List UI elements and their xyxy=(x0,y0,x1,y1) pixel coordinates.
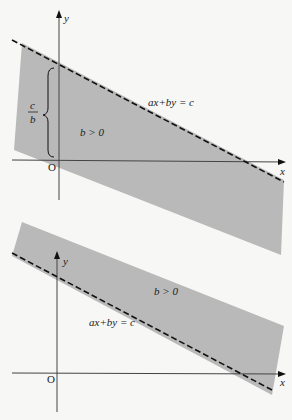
top-region-label: b > 0 xyxy=(80,126,104,138)
bottom-line-label: ax+by = c xyxy=(89,316,135,328)
bottom-y-label: y xyxy=(62,255,68,267)
top-intercept-numerator: c xyxy=(30,99,35,111)
bottom-graph: y x O ax+by = c b > 0 xyxy=(12,222,285,412)
bottom-origin-label: O xyxy=(47,373,55,385)
top-graph: y x O ax+by = c b > 0 c b xyxy=(12,12,285,255)
half-plane-diagram: y x O ax+by = c b > 0 c b y x O ax+by = … xyxy=(0,0,292,420)
bottom-x-label: x xyxy=(279,376,285,388)
bottom-region-label: b > 0 xyxy=(154,285,178,297)
top-shaded-region xyxy=(14,43,284,255)
bottom-shaded-region xyxy=(12,222,284,395)
top-x-label: x xyxy=(279,165,285,177)
top-y-label: y xyxy=(63,12,69,24)
top-intercept-denominator: b xyxy=(30,113,36,125)
top-origin-label: O xyxy=(48,161,56,173)
top-line-label: ax+by = c xyxy=(148,96,194,108)
